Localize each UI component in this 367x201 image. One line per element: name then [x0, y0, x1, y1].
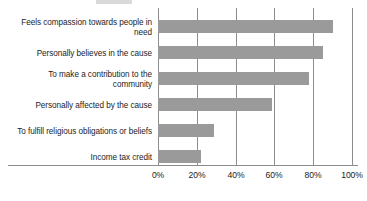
bar-3	[158, 98, 272, 111]
plot-area	[158, 8, 352, 165]
tick-label-60: 60%	[254, 170, 294, 181]
tick-label-0: 0%	[138, 170, 178, 181]
category-label-1: Personally believes in the cause	[0, 49, 152, 59]
x-axis-tick-labels: 0% 20% 40% 60% 80% 100%	[0, 170, 367, 184]
cropped-title-sliver	[96, 0, 132, 4]
category-label-0-line2: need	[0, 28, 152, 38]
tick-label-80: 80%	[293, 170, 333, 181]
bar-5	[158, 150, 201, 163]
x-axis-line	[8, 165, 358, 166]
bar-2	[158, 72, 309, 85]
category-label-5: Income tax credit	[0, 153, 152, 163]
tick-label-20: 20%	[177, 170, 217, 181]
tick-label-40: 40%	[216, 170, 256, 181]
tick-label-100: 100%	[332, 170, 367, 181]
category-label-4: To fulfill religious obligations or beli…	[0, 127, 152, 137]
gridline-100	[352, 8, 353, 165]
category-label-2-line1: To make a contribution to the	[0, 70, 152, 80]
category-label-0-line1: Feels compassion towards people in	[0, 18, 152, 28]
bar-4	[158, 124, 214, 137]
category-label-2-line2: community	[0, 80, 152, 90]
category-label-3: Personally affected by the cause	[0, 101, 152, 111]
bar-0	[158, 20, 333, 33]
bar-1	[158, 46, 323, 59]
bar-chart: Feels compassion towards people in need …	[0, 0, 367, 201]
category-label-column: Feels compassion towards people in need …	[0, 8, 156, 165]
